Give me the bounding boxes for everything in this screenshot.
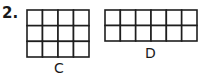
grid-cell (166, 26, 181, 42)
grid-cell (151, 26, 166, 42)
grid-cell (182, 26, 197, 42)
grid-cell (166, 10, 181, 26)
grid-c (26, 9, 90, 58)
grid-cell (74, 26, 90, 42)
grid-cell (43, 10, 59, 26)
grid-cell (58, 26, 74, 42)
grid-cell (58, 10, 74, 26)
grid-cell (105, 26, 120, 42)
grid-c-label: C (54, 61, 64, 75)
grid-d (104, 9, 198, 42)
grid-d-label: D (145, 46, 156, 60)
grid-cell (182, 10, 197, 26)
grid-cell (136, 26, 151, 42)
grid-cell (27, 10, 43, 26)
grid-cell (27, 26, 43, 42)
grid-cell (105, 10, 120, 26)
grid-cell (27, 41, 43, 57)
grid-cell (43, 41, 59, 57)
grid-cell (74, 41, 90, 57)
grid-cell (74, 10, 90, 26)
grid-cell (120, 10, 135, 26)
grid-cell (151, 10, 166, 26)
problem-number: 2. (2, 6, 18, 21)
grid-cell (136, 10, 151, 26)
grid-cell (120, 26, 135, 42)
grid-cell (43, 26, 59, 42)
grid-cell (58, 41, 74, 57)
